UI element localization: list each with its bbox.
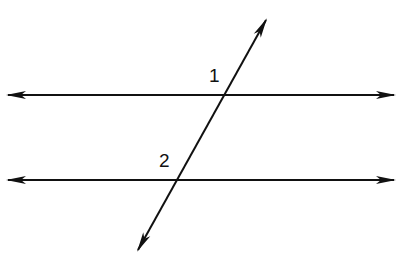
- angle-label-1: 1: [209, 65, 220, 86]
- diagram-canvas: 1 2: [0, 0, 402, 256]
- transversal-line: [138, 20, 266, 250]
- angle-label-2: 2: [159, 150, 170, 171]
